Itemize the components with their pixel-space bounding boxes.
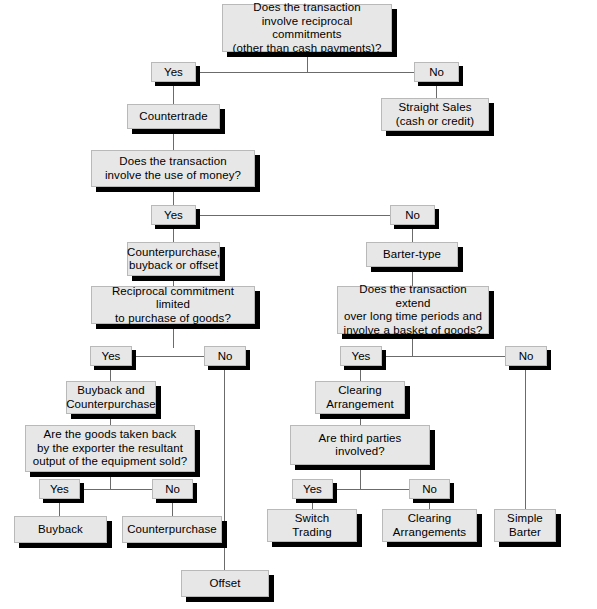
connector-yes3-drop [110,366,111,381]
node-label: Are third parties involved? [319,432,402,459]
node-question-third-parties: Are third parties involved? [290,425,430,465]
branch-label: Yes [164,209,183,222]
connector-q2-stem [173,187,174,207]
branch-label: Yes [50,483,69,496]
branch-label: No [429,66,444,79]
branch-no-3: No [204,346,246,366]
node-label: Reciprocal commitment limited to purchas… [96,285,250,326]
branch-label: Yes [102,350,121,363]
node-label: Barter-type [383,248,441,262]
node-clearing-arrangements: Clearing Arrangements [382,509,477,542]
node-label: Switch Trading [292,512,331,539]
connector-yes5-drop [59,499,60,516]
node-question-goods-taken-back: Are the goods taken back by the exporter… [25,425,195,472]
branch-yes-3: Yes [90,346,132,366]
node-label: Does the transaction involve reciprocal … [227,1,387,55]
node-label: Does the transaction extend over long ti… [342,283,484,337]
branch-yes-2: Yes [151,205,196,225]
node-label: Does the transaction involve the use of … [105,155,241,182]
connector-no1-drop [436,82,437,98]
node-buyback: Buyback [14,516,107,543]
branch-label: No [405,209,420,222]
branch-label: No [165,483,180,496]
node-question-reciprocal-commitments: Does the transaction involve reciprocal … [222,4,392,52]
node-label: Buyback and Counterpurchase [66,384,156,411]
node-question-reciprocal-limited: Reciprocal commitment limited to purchas… [91,286,255,324]
branch-no-6: No [409,479,450,499]
connector-no3-long-drop [224,366,225,570]
connector-q3-stem [173,324,174,348]
branch-no-5: No [152,479,193,499]
node-label: Counterpurchase [127,523,217,537]
connector-bbcp-to-q5 [110,414,111,425]
flowchart-canvas: Does the transaction involve reciprocal … [0,0,597,609]
connector-no2-drop [412,225,413,242]
node-counterpurchase-buyback-offset: Counterpurchase, buyback or offset [127,242,220,276]
node-question-long-time-basket: Does the transaction extend over long ti… [337,286,489,334]
node-label: Are the goods taken back by the exporter… [33,428,187,469]
branch-yes-5: Yes [39,479,80,499]
node-clearing-arrangement: Clearing Arrangement [315,381,405,414]
branch-no-1: No [414,62,459,82]
node-switch-trading: Switch Trading [267,509,357,542]
node-simple-barter: Simple Barter [494,509,556,542]
connector-q4-stem [412,334,413,356]
branch-label: No [218,350,233,363]
connector-q5-stem [110,472,111,489]
connector-root-stem [307,52,308,72]
branch-no-4: No [505,346,547,366]
connector-no4-long-drop [525,366,526,509]
connector-yes4-drop [360,366,361,381]
node-offset: Offset [181,570,269,597]
branch-label: No [422,483,437,496]
node-barter-type: Barter-type [366,242,458,267]
branch-label: Yes [352,350,371,363]
node-label: Simple Barter [507,512,543,539]
node-label: Countertrade [139,110,207,124]
branch-label: Yes [303,483,322,496]
node-label: Straight Sales (cash or credit) [396,101,474,128]
branch-yes-4: Yes [340,346,382,366]
connector-no5-drop [172,499,173,516]
connector-clearing-to-q6 [360,414,361,425]
node-question-use-of-money: Does the transaction involve the use of … [91,150,255,187]
node-label: Clearing Arrangements [393,512,466,539]
connector-yes2-drop [173,225,174,242]
branch-yes-6: Yes [292,479,333,499]
node-straight-sales: Straight Sales (cash or credit) [381,98,489,131]
connector-level2-bus [196,215,414,216]
node-buyback-and-counterpurchase: Buyback and Counterpurchase [66,381,156,414]
branch-no-2: No [390,205,435,225]
connector-level3-right-bus [371,356,527,357]
node-label: Offset [209,577,240,591]
branch-label: No [519,350,534,363]
connector-yes1-drop [173,82,174,104]
node-counterpurchase: Counterpurchase [122,516,222,543]
node-label: Buyback [38,523,83,537]
node-label: Counterpurchase, buyback or offset [127,246,220,273]
connector-level1-bus [195,72,438,73]
connector-q6-stem [360,465,361,489]
branch-yes-1: Yes [151,62,196,82]
branch-label: Yes [164,66,183,79]
connector-countertrade-to-q2 [173,129,174,150]
node-countertrade: Countertrade [127,104,220,129]
node-label: Clearing Arrangement [326,384,394,411]
